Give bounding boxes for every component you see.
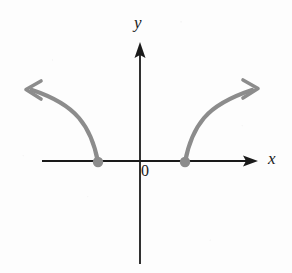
- coordinate-plane-svg: [0, 0, 292, 273]
- right-branch-curve: [185, 90, 252, 162]
- graph-figure: y x 0: [0, 0, 292, 273]
- right-x-intercept-point: [180, 157, 190, 167]
- y-axis-label: y: [134, 14, 142, 31]
- x-axis-label: x: [268, 150, 276, 167]
- left-branch-curve: [32, 90, 98, 162]
- origin-label: 0: [141, 163, 149, 179]
- left-x-intercept-point: [93, 157, 103, 167]
